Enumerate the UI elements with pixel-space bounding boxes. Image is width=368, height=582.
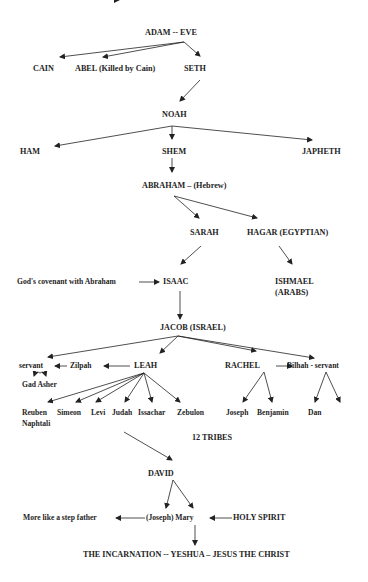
node-cain: CAIN xyxy=(33,64,54,74)
node-abel: ABEL (Killed by Cain) xyxy=(75,64,155,74)
node-benjamin: Benjamin xyxy=(257,408,289,418)
node-hagar: HAGAR (EGYPTIAN) xyxy=(247,228,328,238)
node-step-father: More like a step father xyxy=(23,513,97,523)
node-jacob: JACOB (ISRAEL) xyxy=(160,323,226,333)
connector-arrows xyxy=(0,0,368,582)
node-reuben: Reuben xyxy=(22,408,47,418)
node-ham: HAM xyxy=(20,147,40,157)
node-sarah: SARAH xyxy=(190,228,219,238)
node-david: DAVID xyxy=(148,469,174,479)
node-zilpah: Zilpah xyxy=(70,361,92,371)
node-ishmael-arabs: (ARABS) xyxy=(275,288,308,298)
genealogy-diagram: ADAM -- EVE CAIN ABEL (Killed by Cain) S… xyxy=(0,0,368,582)
node-simeon: Simeon xyxy=(57,408,81,418)
node-twelve-tribes: 12 TRIBES xyxy=(192,433,232,443)
node-incarnation: THE INCARNATION -- YESHUA – JESUS THE CH… xyxy=(83,550,290,560)
node-joseph-mary: (Joseph) Mary xyxy=(146,513,193,523)
node-rachel: RACHEL xyxy=(225,361,260,371)
node-adam-eve: ADAM -- EVE xyxy=(145,28,197,38)
node-issachar: Issachar xyxy=(138,408,165,418)
node-gad-asher: Gad Asher xyxy=(22,380,57,390)
node-dan: Dan xyxy=(308,408,322,418)
node-judah: Judah xyxy=(112,408,132,418)
node-naphtali: Naphtali xyxy=(22,419,50,429)
node-japheth: JAPHETH xyxy=(302,147,341,157)
node-noah: NOAH xyxy=(162,110,187,120)
node-holy-spirit: HOLY SPIRIT xyxy=(233,513,285,523)
node-servant-zilpah: servant xyxy=(19,361,43,371)
node-levi: Levi xyxy=(91,408,105,418)
node-ishmael: ISHMAEL xyxy=(275,277,314,287)
node-leah: LEAH xyxy=(134,361,157,371)
node-seth: SETH xyxy=(184,64,206,74)
node-bilhah: Bilhah - servant xyxy=(287,361,339,371)
node-covenant: God's covenant with Abraham xyxy=(17,277,116,287)
node-zebulon: Zebulon xyxy=(177,408,204,418)
node-joseph-son: Joseph xyxy=(226,408,248,418)
node-abraham: ABRAHAM – (Hebrew) xyxy=(142,181,226,191)
node-isaac: ISAAC xyxy=(163,277,188,287)
node-shem: SHEM xyxy=(162,147,186,157)
